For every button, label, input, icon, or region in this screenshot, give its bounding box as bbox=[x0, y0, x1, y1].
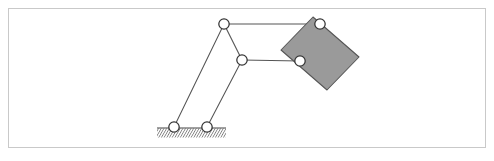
mechanism-diagram bbox=[0, 0, 494, 161]
ground-pivot-left bbox=[169, 122, 179, 132]
link-lower-bar bbox=[242, 60, 300, 61]
joint-lower-right bbox=[295, 56, 305, 66]
joint-top-right bbox=[315, 19, 325, 29]
link-crank-right bbox=[207, 60, 242, 127]
joint-middle bbox=[237, 55, 247, 65]
ground-pivot-right bbox=[202, 122, 212, 132]
link-crank-left bbox=[174, 24, 224, 127]
joint-top-left bbox=[219, 19, 229, 29]
ground-hatch-fill bbox=[157, 129, 226, 138]
link-coupler-ab bbox=[224, 24, 242, 60]
ground-support bbox=[157, 128, 226, 138]
figure-root bbox=[0, 0, 494, 161]
